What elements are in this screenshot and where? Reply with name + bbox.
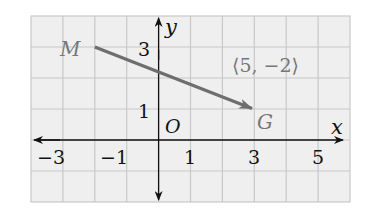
x-tick-label: 3: [248, 146, 260, 168]
vector-label: ⟨5, −2⟩: [232, 54, 299, 76]
x-tick-label: 5: [312, 146, 324, 168]
y-axis-label: y: [164, 15, 178, 39]
coordinate-plane: y x O 3 1 −3 −1 1 3 5 M G ⟨5, −2⟩: [0, 0, 377, 217]
origin-label: O: [165, 115, 181, 137]
y-tick-label: 3: [138, 38, 150, 60]
x-tick-label: 1: [184, 146, 196, 168]
y-tick-label: 1: [138, 100, 150, 122]
point-M-label: M: [59, 37, 81, 61]
point-G-label: G: [257, 110, 273, 134]
x-tick-label: −3: [37, 146, 65, 168]
x-tick-label: −1: [100, 146, 128, 168]
x-axis-label: x: [331, 115, 343, 139]
